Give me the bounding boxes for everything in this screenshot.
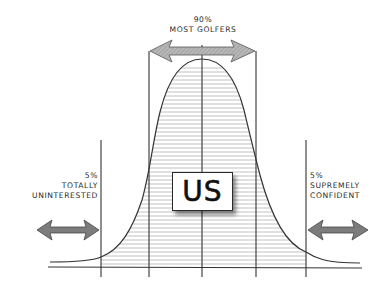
top-segment-label: 90% MOST GOLFERS <box>150 15 256 35</box>
baseline-axis <box>48 267 362 268</box>
left-segment-label: 5% TOTALLY UNINTERESTED <box>10 171 98 201</box>
bell-curve-graphic <box>0 0 390 293</box>
left-percent: 5% <box>10 171 98 181</box>
double-arrow-right-icon <box>308 220 368 240</box>
double-arrow-left-icon <box>37 220 99 240</box>
left-label-line2: UNINTERESTED <box>10 191 98 201</box>
us-label: US <box>182 178 222 206</box>
right-label-line2: CONFIDENT <box>310 191 390 201</box>
bell-curve-diagram: 90% MOST GOLFERS 5% TOTALLY UNINTERESTED… <box>0 0 390 293</box>
us-marker-box: US <box>172 172 233 211</box>
right-percent: 5% <box>310 171 390 181</box>
right-segment-label: 5% SUPREMELY CONFIDENT <box>310 171 390 201</box>
left-label-line1: TOTALLY <box>10 181 98 191</box>
top-label: MOST GOLFERS <box>150 25 256 35</box>
top-percent: 90% <box>150 15 256 25</box>
right-label-line1: SUPREMELY <box>310 181 390 191</box>
